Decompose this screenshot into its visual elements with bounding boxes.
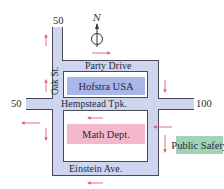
traffic-arrows	[0, 0, 224, 189]
